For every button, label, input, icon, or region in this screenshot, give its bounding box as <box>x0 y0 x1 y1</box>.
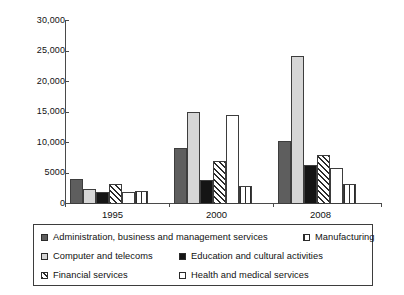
bar-group-2000 <box>174 21 259 204</box>
x-tick-mark-start <box>65 203 66 207</box>
legend-entry-administration[interactable]: Administration, business and management … <box>41 228 268 247</box>
bar-2000-education <box>200 180 213 204</box>
bar-2008-health <box>330 168 343 204</box>
bar-2000-health <box>226 115 239 204</box>
bar-2000-computer-telecoms <box>187 112 200 204</box>
legend: Administration, business and management … <box>33 224 373 286</box>
legend-entry-education[interactable]: Education and cultural activities <box>179 247 323 266</box>
legend-entry-financial[interactable]: Financial services <box>41 266 128 285</box>
legend-swatch-education-icon <box>179 253 186 260</box>
x-tick-mark-1 <box>169 203 170 207</box>
bar-2000-manufacturing <box>239 186 252 204</box>
legend-swatch-health-icon <box>179 272 186 279</box>
legend-row-3: Financial services Health and medical se… <box>34 266 372 285</box>
bar-group-1995 <box>70 21 155 204</box>
bar-2008-computer-telecoms <box>291 56 304 204</box>
legend-swatch-financial-icon <box>41 272 48 279</box>
legend-swatch-computer-telecoms-icon <box>41 253 48 260</box>
bar-1995-financial <box>109 184 122 204</box>
legend-entry-health[interactable]: Health and medical services <box>179 266 309 285</box>
legend-entry-manufacturing[interactable]: Manufacturing <box>303 228 375 247</box>
bar-1995-education <box>96 192 109 204</box>
bars-layer <box>0 0 404 204</box>
legend-entry-computer-telecoms[interactable]: Computer and telecoms <box>41 247 153 266</box>
plot-area: 30,000 25,000 20,000 15,000 10,000 5000 … <box>0 0 404 222</box>
x-label-2008: 2008 <box>278 209 363 220</box>
x-label-2000: 2000 <box>174 209 259 220</box>
legend-swatch-administration-icon <box>41 234 48 241</box>
legend-row-2: Computer and telecoms Education and cult… <box>34 247 372 266</box>
bar-2000-financial <box>213 161 226 204</box>
bar-1995-computer-telecoms <box>83 189 96 204</box>
bar-2008-education <box>304 165 317 204</box>
legend-swatch-manufacturing-icon <box>303 234 310 241</box>
bar-1995-manufacturing <box>135 191 148 204</box>
bar-1995-administration <box>70 179 83 204</box>
x-tick-mark-2 <box>273 203 274 207</box>
x-label-1995: 1995 <box>70 209 155 220</box>
bar-group-2008 <box>278 21 363 204</box>
bar-2008-financial <box>317 155 330 204</box>
bar-2008-administration <box>278 141 291 204</box>
x-tick-mark-end <box>381 203 382 207</box>
bar-1995-health <box>122 192 135 204</box>
bar-2000-administration <box>174 148 187 204</box>
bar-2008-manufacturing <box>343 184 356 204</box>
bar-chart: 30,000 25,000 20,000 15,000 10,000 5000 … <box>0 0 404 295</box>
legend-row-1: Administration, business and management … <box>34 228 372 247</box>
